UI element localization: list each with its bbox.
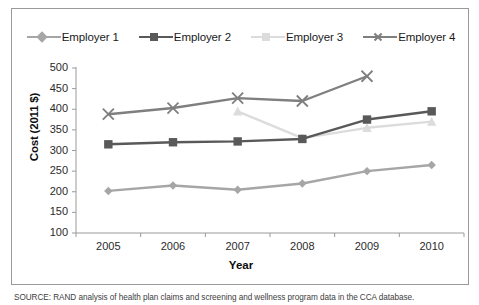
- square-marker-icon: [233, 137, 241, 145]
- x-tick-label: 2010: [409, 240, 455, 252]
- triangle-marker-icon: [233, 107, 242, 116]
- diamond-marker-icon: [169, 181, 177, 189]
- x-tick-label: 2009: [344, 240, 390, 252]
- x-axis-title: Year: [12, 259, 470, 271]
- x-tick-label: 2007: [215, 240, 261, 252]
- series-line: [108, 165, 431, 191]
- diamond-marker-icon: [233, 185, 241, 193]
- y-tick-label: 150: [34, 205, 68, 217]
- y-tick-label: 100: [34, 226, 68, 238]
- diamond-marker-icon: [427, 161, 435, 169]
- chart-frame: Employer 1 Employer 2 Employer 3: [11, 8, 469, 285]
- square-marker-icon: [363, 115, 371, 123]
- square-marker-icon: [427, 107, 435, 115]
- square-marker-icon: [104, 140, 112, 148]
- x-tick-label: 2005: [85, 240, 131, 252]
- plot-area: 500450400350300250200150100 200520062007…: [12, 9, 470, 286]
- axis-layer: [72, 67, 464, 237]
- diamond-marker-icon: [363, 167, 371, 175]
- series-layer: [103, 71, 437, 195]
- square-marker-icon: [298, 135, 306, 143]
- square-marker-icon: [169, 138, 177, 146]
- series-employer-2: [104, 107, 436, 148]
- x-tick-label: 2008: [279, 240, 325, 252]
- figure-container: Employer 1 Employer 2 Employer 3: [0, 0, 479, 305]
- y-tick-label: 200: [34, 185, 68, 197]
- series-employer-3: [233, 107, 436, 143]
- diamond-marker-icon: [298, 179, 306, 187]
- series-line: [108, 111, 431, 144]
- source-note: SOURCE: RAND analysis of health plan cla…: [14, 293, 474, 302]
- y-axis-title: Cost (2011 $): [28, 72, 40, 182]
- diamond-marker-icon: [104, 187, 112, 195]
- x-tick-label: 2006: [150, 240, 196, 252]
- series-employer-1: [104, 161, 436, 195]
